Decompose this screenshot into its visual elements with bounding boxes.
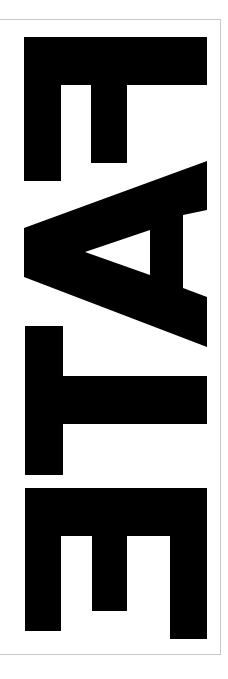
fate-lettering [0,0,228,679]
letter-t [25,326,207,475]
letter-a [24,161,207,347]
letter-e [25,488,207,639]
letter-f [24,37,207,181]
